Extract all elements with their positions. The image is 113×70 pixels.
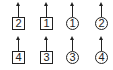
circle-node: 2	[95, 17, 108, 30]
arrow-up-icon	[18, 5, 19, 17]
arrow-up-icon	[18, 39, 19, 51]
square-node: 2	[12, 17, 25, 30]
square-node: 4	[12, 51, 25, 64]
circle-node: 4	[95, 51, 108, 64]
square-node: 3	[40, 51, 53, 64]
arrow-up-icon	[101, 39, 102, 51]
square-node: 1	[40, 17, 53, 30]
circle-node: 3	[66, 51, 79, 64]
arrow-up-icon	[72, 5, 73, 17]
arrow-up-icon	[46, 39, 47, 51]
arrow-up-icon	[72, 39, 73, 51]
circle-node: 1	[66, 17, 79, 30]
arrow-up-icon	[46, 5, 47, 17]
arrow-up-icon	[101, 5, 102, 17]
